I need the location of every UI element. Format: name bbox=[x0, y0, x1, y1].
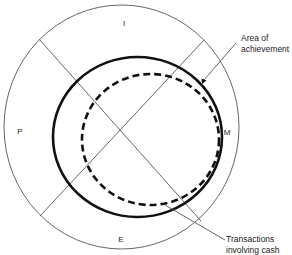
cash-transactions-circle bbox=[82, 74, 219, 205]
area-leader bbox=[202, 43, 237, 84]
sector-label-bottom: E bbox=[118, 235, 123, 244]
cash-callout-line1: Transactions bbox=[226, 234, 274, 244]
cash-transactions-diagram: I P M E Area of achievement Transactions… bbox=[0, 0, 292, 255]
area-callout-line1: Area of bbox=[241, 33, 269, 43]
outer-circle bbox=[4, 5, 239, 249]
sector-label-right: M bbox=[224, 128, 231, 137]
area-callout-line2: achievement bbox=[241, 44, 290, 54]
cash-callout-line2: involving cash bbox=[226, 245, 280, 255]
sector-label-left: P bbox=[17, 127, 22, 136]
cash-leader bbox=[165, 205, 225, 240]
achievement-circle bbox=[53, 57, 222, 217]
sector-label-top: I bbox=[123, 19, 125, 28]
